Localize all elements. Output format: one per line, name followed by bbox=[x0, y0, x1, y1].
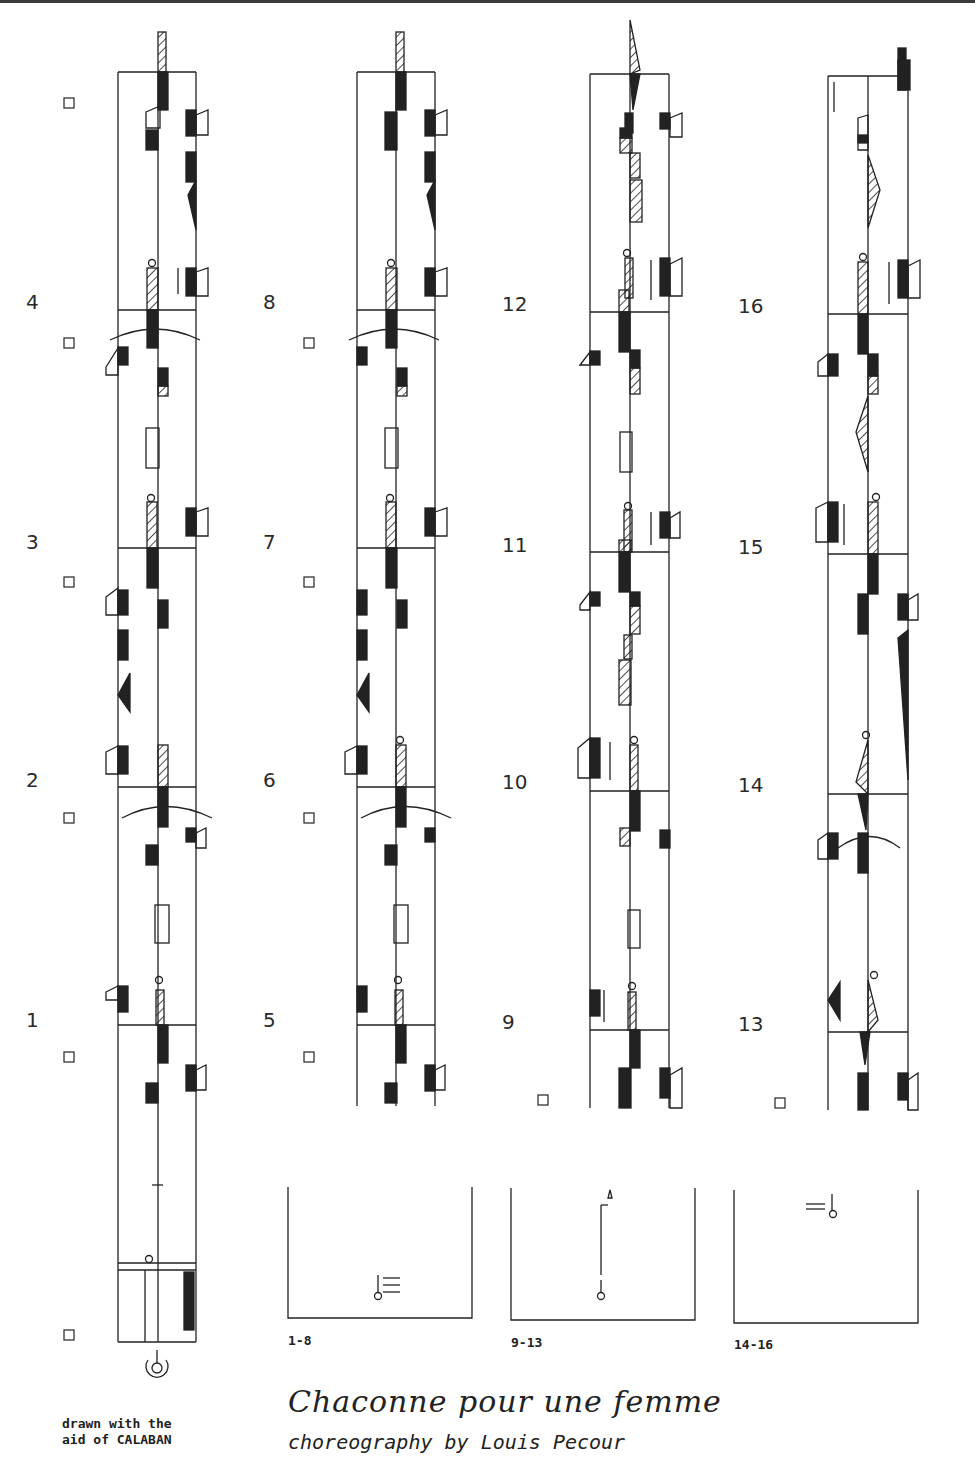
floor-plan-14-16 bbox=[734, 1190, 918, 1323]
measure-number: 1 bbox=[26, 1008, 39, 1032]
staff-1 bbox=[106, 32, 212, 1377]
measure-number: 14 bbox=[738, 773, 763, 797]
measure-number: 9 bbox=[502, 1010, 515, 1034]
page-title: Chaconne pour une femme bbox=[288, 1384, 722, 1419]
floor-plan-label: 14-16 bbox=[734, 1337, 773, 1352]
credit-line-2: aid of CALABAN bbox=[62, 1432, 172, 1448]
measure-number: 6 bbox=[263, 768, 276, 792]
measure-number: 4 bbox=[26, 290, 39, 314]
credit-line-1: drawn with the bbox=[62, 1416, 172, 1432]
measure-number: 13 bbox=[738, 1012, 763, 1036]
measure-number: 7 bbox=[263, 530, 276, 554]
page-subtitle: choreography by Louis Pecour bbox=[288, 1430, 625, 1454]
measure-number: 16 bbox=[738, 294, 763, 318]
measure-number: 2 bbox=[26, 768, 39, 792]
floor-plan-9-13 bbox=[511, 1188, 695, 1320]
labanotation-score bbox=[0, 0, 975, 1474]
staff-2 bbox=[345, 32, 451, 1106]
staff-3 bbox=[578, 20, 682, 1108]
floor-plan-label: 1-8 bbox=[288, 1333, 311, 1348]
staff-4 bbox=[816, 48, 920, 1110]
floor-plan-label: 9-13 bbox=[511, 1335, 542, 1350]
measure-number: 3 bbox=[26, 530, 39, 554]
measure-number: 11 bbox=[502, 533, 527, 557]
measure-number: 10 bbox=[502, 770, 527, 794]
measure-number: 15 bbox=[738, 535, 763, 559]
measure-number: 12 bbox=[502, 292, 527, 316]
measure-number: 8 bbox=[263, 290, 276, 314]
floor-plan-1-8 bbox=[288, 1187, 472, 1318]
measure-number: 5 bbox=[263, 1008, 276, 1032]
